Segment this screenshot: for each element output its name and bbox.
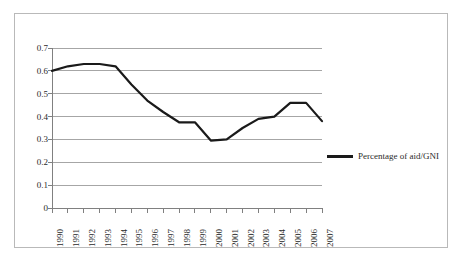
y-tick-label-7: 0 xyxy=(18,204,48,213)
x-tick-label-2003: 2003 xyxy=(262,229,271,247)
y-tick-label-0: 0.7 xyxy=(18,44,48,53)
y-tick-label-5: 0.2 xyxy=(18,158,48,167)
legend-line-swatch xyxy=(327,155,353,158)
x-tick-label-1999: 1999 xyxy=(199,229,208,247)
legend-label-percentage-of-aid-gni: Percentage of aid/GNI xyxy=(358,152,439,161)
line-chart xyxy=(0,0,462,262)
x-tick-label-2001: 2001 xyxy=(231,229,240,247)
y-tick-label-2: 0.5 xyxy=(18,89,48,98)
chart-axes xyxy=(48,48,322,208)
x-tick-label-1990: 1990 xyxy=(56,229,65,247)
x-tick-label-2002: 2002 xyxy=(247,229,256,247)
series-line-0 xyxy=(52,64,322,141)
gridlines xyxy=(52,48,322,208)
y-tick-label-1: 0.6 xyxy=(18,66,48,75)
x-tick-label-1995: 1995 xyxy=(135,229,144,247)
x-tick-label-2000: 2000 xyxy=(215,229,224,247)
y-tick-label-3: 0.4 xyxy=(18,112,48,121)
x-tick-label-2004: 2004 xyxy=(278,229,287,247)
x-tick-label-1998: 1998 xyxy=(183,229,192,247)
x-tick-label-1993: 1993 xyxy=(104,229,113,247)
x-tick-label-1997: 1997 xyxy=(167,229,176,247)
x-axis-tick-marks xyxy=(52,208,322,213)
x-tick-label-1991: 1991 xyxy=(72,229,81,247)
data-series-lines xyxy=(52,64,322,141)
x-tick-label-1994: 1994 xyxy=(120,229,129,247)
x-tick-label-1992: 1992 xyxy=(88,229,97,247)
x-tick-label-2006: 2006 xyxy=(310,229,319,247)
x-tick-label-2007: 2007 xyxy=(326,229,335,247)
x-tick-label-2005: 2005 xyxy=(294,229,303,247)
chart-legend: Percentage of aid/GNI xyxy=(327,152,439,161)
y-tick-label-4: 0.3 xyxy=(18,135,48,144)
y-tick-label-6: 0.1 xyxy=(18,181,48,190)
x-tick-label-1996: 1996 xyxy=(151,229,160,247)
